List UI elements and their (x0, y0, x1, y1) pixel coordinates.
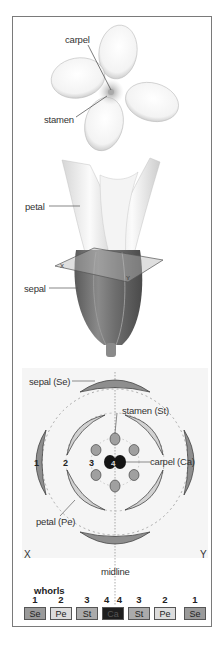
svg-text:X: X (60, 263, 64, 269)
label-x: X (24, 549, 30, 560)
whorl-sepal-right: 1 Se (184, 595, 206, 620)
label-y: Y (200, 549, 206, 560)
whorls-legend: 1 Se 2 Pe 3 St 4 4 Ca 3 St 2 Pe 1 Se (24, 595, 210, 621)
label-sepal-bud: sepal (24, 283, 46, 294)
whorl-petal-right: 2 Pe (154, 595, 176, 620)
label-petal-pe: petal (Pe) (36, 516, 75, 527)
whorl-stamen-right: 3 St (128, 595, 150, 620)
label-petal-bud: petal (25, 201, 45, 212)
label-carpel-top: carpel (65, 34, 90, 45)
label-carpel-ca: carpel (Ca) (150, 456, 195, 467)
label-stamen-top: stamen (44, 114, 74, 125)
flower-bud: X Y (49, 158, 163, 357)
flower-illustration: X Y 1 (0, 0, 221, 654)
label-midline: midline (101, 566, 130, 577)
svg-text:2: 2 (63, 458, 68, 468)
whorl-sepal-left: 1 Se (24, 595, 46, 620)
label-stamen-st: stamen (St) (122, 405, 169, 416)
svg-text:4: 4 (111, 459, 116, 468)
svg-text:1: 1 (34, 458, 39, 468)
svg-text:3: 3 (89, 458, 94, 468)
whorl-stamen-left: 3 St (76, 595, 98, 620)
svg-text:Y: Y (126, 275, 130, 281)
whorl-petal-left: 2 Pe (50, 595, 72, 620)
whorl-carpel-center: 4 4 Ca (102, 595, 124, 620)
label-sepal-se: sepal (Se) (29, 376, 70, 387)
